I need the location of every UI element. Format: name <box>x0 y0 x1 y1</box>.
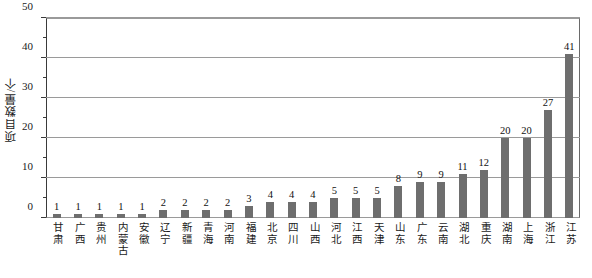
x-axis-category-label: 浙江 <box>537 221 558 278</box>
x-axis-category-label: 河南 <box>217 221 238 278</box>
bar-value-label: 41 <box>564 41 575 52</box>
bar[interactable] <box>523 138 531 218</box>
x-axis-category-label-text: 湖北 <box>457 222 468 245</box>
x-axis-category-label-text: 河南 <box>222 222 233 245</box>
bar-item[interactable]: 4 <box>302 18 323 218</box>
x-axis-category-label-text: 山东 <box>393 222 404 245</box>
bar-value-label: 9 <box>417 169 422 180</box>
bar[interactable] <box>266 202 274 218</box>
bar-item[interactable]: 41 <box>559 18 580 218</box>
bar-value-label: 2 <box>225 197 230 208</box>
bar-value-label: 20 <box>521 125 532 136</box>
x-axis-category-label-text: 青海 <box>201 222 212 245</box>
x-axis-category-label-text: 山西 <box>308 222 319 245</box>
bar-item[interactable]: 1 <box>46 18 67 218</box>
bar-item[interactable]: 1 <box>89 18 110 218</box>
bar[interactable] <box>245 206 253 218</box>
bar-item[interactable]: 1 <box>67 18 88 218</box>
x-axis-category-label-text: 内蒙古 <box>116 222 127 257</box>
bar[interactable] <box>224 210 232 218</box>
bar-item[interactable]: 9 <box>430 18 451 218</box>
plot-area: 01020304050 1111122223444555899111220202… <box>46 18 580 218</box>
bar-value-label: 1 <box>118 201 123 212</box>
x-axis-category-label-text: 江西 <box>350 222 361 245</box>
x-axis-category-label: 天津 <box>366 221 387 278</box>
x-axis-category-label-text: 四川 <box>286 222 297 245</box>
bar-value-label: 4 <box>310 189 315 200</box>
bar-value-label: 2 <box>161 197 166 208</box>
bar-item[interactable]: 2 <box>153 18 174 218</box>
bar-series: 1111122223444555899111220202741 <box>46 18 580 218</box>
x-axis-category-label: 广西 <box>67 221 88 278</box>
bar[interactable] <box>416 182 424 218</box>
bar-value-label: 5 <box>353 185 358 196</box>
bar[interactable] <box>373 198 381 218</box>
bar-item[interactable]: 20 <box>495 18 516 218</box>
bar[interactable] <box>117 214 125 218</box>
bar[interactable] <box>309 202 317 218</box>
x-axis-category-label: 江苏 <box>559 221 580 278</box>
bar-value-label: 4 <box>289 189 294 200</box>
bar[interactable] <box>565 54 573 218</box>
bar[interactable] <box>181 210 189 218</box>
x-axis-category-label: 辽宁 <box>153 221 174 278</box>
x-axis-category-label-text: 广东 <box>415 222 426 245</box>
bar-item[interactable]: 9 <box>409 18 430 218</box>
bar-item[interactable]: 2 <box>174 18 195 218</box>
x-axis-category-label-text: 重庆 <box>479 222 490 245</box>
bar[interactable] <box>53 214 61 218</box>
bar-value-label: 1 <box>97 201 102 212</box>
bar[interactable] <box>159 210 167 218</box>
x-axis-category-label-text: 云南 <box>436 222 447 245</box>
bar[interactable] <box>459 174 467 218</box>
x-axis-category-label-text: 新疆 <box>180 222 191 245</box>
x-axis-category-label-text: 上海 <box>521 222 532 245</box>
bar-value-label: 2 <box>204 197 209 208</box>
bar-item[interactable]: 2 <box>196 18 217 218</box>
x-axis-category-label: 湖南 <box>495 221 516 278</box>
x-axis-category-label-text: 河北 <box>329 222 340 245</box>
bar[interactable] <box>501 138 509 218</box>
bar-item[interactable]: 5 <box>345 18 366 218</box>
bar-item[interactable]: 5 <box>366 18 387 218</box>
x-axis-category-label: 青海 <box>196 221 217 278</box>
bar-value-label: 1 <box>75 201 80 212</box>
y-axis-tick-label: 40 <box>22 40 33 52</box>
bar-item[interactable]: 4 <box>281 18 302 218</box>
bar-item[interactable]: 20 <box>516 18 537 218</box>
bar-item[interactable]: 8 <box>388 18 409 218</box>
bar-item[interactable]: 1 <box>131 18 152 218</box>
x-axis-category-label: 贵州 <box>89 221 110 278</box>
y-axis-tick-label: 50 <box>22 0 33 12</box>
y-axis-tick-label: 30 <box>22 80 33 92</box>
bar[interactable] <box>288 202 296 218</box>
y-axis-tick-label: 10 <box>22 160 33 172</box>
bar-item[interactable]: 4 <box>260 18 281 218</box>
bar[interactable] <box>95 214 103 218</box>
bar-item[interactable]: 3 <box>238 18 259 218</box>
bar-item[interactable]: 5 <box>324 18 345 218</box>
bar-chart-figure: 项目数量/个 01020304050 111112222344455589911… <box>0 0 592 278</box>
bar[interactable] <box>202 210 210 218</box>
bar[interactable] <box>437 182 445 218</box>
bar-item[interactable]: 12 <box>473 18 494 218</box>
x-axis-category-label-text: 浙江 <box>543 222 554 245</box>
bar-item[interactable]: 1 <box>110 18 131 218</box>
bar-item[interactable]: 11 <box>452 18 473 218</box>
bar[interactable] <box>352 198 360 218</box>
bar[interactable] <box>480 170 488 218</box>
x-axis-category-label: 四川 <box>281 221 302 278</box>
x-axis-category-label: 广东 <box>409 221 430 278</box>
x-axis-category-label: 重庆 <box>473 221 494 278</box>
bar[interactable] <box>394 186 402 218</box>
bar-value-label: 4 <box>268 189 273 200</box>
x-axis-category-label-text: 广西 <box>73 222 84 245</box>
bar[interactable] <box>544 110 552 218</box>
bar[interactable] <box>74 214 82 218</box>
x-axis-category-label: 山西 <box>302 221 323 278</box>
bar-item[interactable]: 2 <box>217 18 238 218</box>
bar-item[interactable]: 27 <box>537 18 558 218</box>
bar[interactable] <box>330 198 338 218</box>
x-axis-category-label: 北京 <box>260 221 281 278</box>
bar[interactable] <box>138 214 146 218</box>
